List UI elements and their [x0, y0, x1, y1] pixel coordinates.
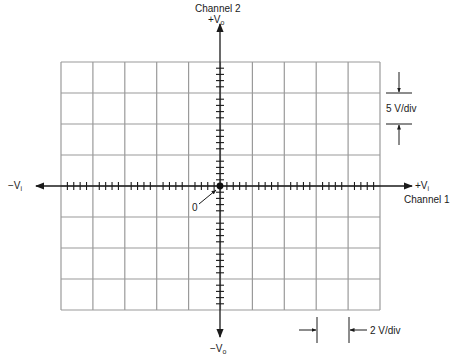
vertical-scale-label: 5 V/div [386, 103, 417, 114]
horizontal-scale-label: 2 V/div [370, 325, 401, 336]
channel2-label: Channel 2 [195, 3, 241, 14]
horizontal-scale-indicator [299, 317, 367, 343]
origin-pointer-arrow [199, 190, 216, 204]
channel1-label: Channel 1 [404, 194, 450, 205]
origin-dot [217, 183, 224, 190]
plus-vo-label: +Vo [208, 14, 224, 25]
plus-vi-label: +Vi [415, 180, 429, 191]
minus-vo-label: −Vo [210, 343, 226, 354]
origin-label: 0 [192, 202, 198, 213]
minus-vi-label: −Vi [8, 180, 22, 191]
xy-graticule-diagram [0, 0, 454, 361]
